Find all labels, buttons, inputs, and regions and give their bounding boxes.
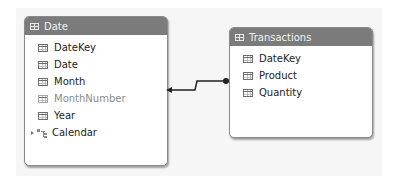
relationship-line[interactable]	[0, 0, 397, 180]
arrow-end-icon	[166, 87, 172, 93]
many-end-dot-icon	[223, 78, 229, 84]
